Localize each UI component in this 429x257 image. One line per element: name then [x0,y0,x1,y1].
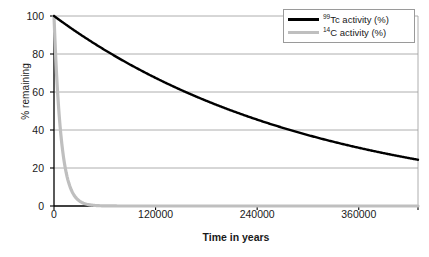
bottom-caption [0,251,429,257]
x-tick-label-120000: 120000 [138,209,173,220]
x-tick-label-0: 0 [51,209,57,220]
x-tick-label-360000: 360000 [341,209,376,220]
legend-rest-14c: C activity (%) [330,27,386,38]
legend-item-99tc: 99Tc activity (%) [288,13,412,26]
legend-swatch-14c-icon [288,31,319,34]
legend-label-99tc: 99Tc activity (%) [323,14,389,25]
x-tick-label-240000: 240000 [240,209,275,220]
x-axis-title: Time in years [54,231,418,243]
legend-rest-99tc: Tc activity (%) [330,14,389,25]
chart-legend: 99Tc activity (%) 14C activity (%) [283,9,415,43]
legend-item-14c: 14C activity (%) [288,26,412,39]
radioactive-decay-chart: % remaining 020406080100 012000024000036… [0,0,429,257]
legend-swatch-99tc-icon [288,18,319,21]
legend-label-14c: 14C activity (%) [323,27,386,38]
